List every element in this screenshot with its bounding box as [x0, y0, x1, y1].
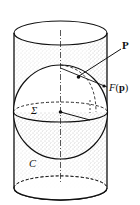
sphere-cylinder-diagram: P F(p) Σ C [0, 0, 140, 205]
label-sigma: Σ [30, 105, 38, 116]
label-close-paren: ) [125, 82, 129, 94]
sphere-center-point [59, 110, 63, 114]
label-C: C [29, 158, 37, 169]
label-F-of-p: F(p) [108, 82, 129, 94]
point-fp [102, 84, 105, 87]
label-P: P [122, 39, 129, 51]
